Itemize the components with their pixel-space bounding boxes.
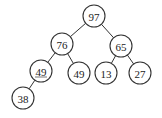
tree-node: 13 — [95, 62, 117, 84]
tree-node: 27 — [129, 62, 151, 84]
tree-edge — [101, 24, 113, 38]
node-label: 27 — [135, 68, 147, 80]
tree-node: 49 — [30, 60, 52, 82]
node-label: 38 — [18, 93, 30, 105]
node-label: 49 — [74, 68, 86, 80]
node-label: 65 — [116, 41, 128, 53]
node-label: 13 — [101, 68, 113, 80]
node-label: 49 — [36, 66, 48, 78]
tree-edge — [127, 55, 133, 64]
tree-edge — [70, 23, 85, 37]
binary-tree-diagram: 9776654949132738 — [0, 0, 162, 118]
tree-node: 65 — [110, 35, 132, 57]
tree-edge — [111, 56, 115, 64]
tree-node: 38 — [12, 87, 34, 109]
tree-node: 97 — [83, 5, 105, 27]
node-label: 97 — [89, 11, 101, 23]
node-label: 76 — [57, 39, 69, 51]
tree-node: 76 — [51, 33, 73, 55]
tree-edge — [29, 80, 35, 89]
tree-edge — [48, 53, 55, 63]
tree-nodes: 9776654949132738 — [12, 5, 151, 109]
tree-edge — [68, 53, 74, 63]
tree-node: 49 — [68, 62, 90, 84]
